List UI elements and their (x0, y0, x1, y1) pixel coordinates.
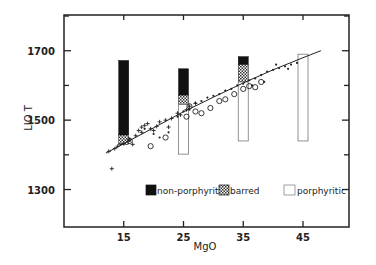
range-bar-non-porphyritic (238, 57, 248, 65)
legend-label: non-porphyritic (157, 186, 226, 196)
circle-marker (223, 97, 228, 102)
x-tick-label: 15 (117, 232, 131, 243)
dot-marker (242, 83, 244, 85)
dot-marker (218, 93, 220, 95)
cross-marker (167, 125, 171, 129)
dot-marker (272, 69, 274, 71)
cross-marker (164, 118, 168, 122)
range-bar-non-porphyritic (119, 60, 129, 135)
circle-marker (148, 144, 153, 149)
circle-marker (253, 85, 258, 90)
range-bar-barred (238, 65, 248, 82)
dot-marker (236, 84, 238, 86)
range-bar-porphyritic (238, 82, 248, 141)
dot-marker (296, 62, 298, 64)
x-tick-label: 25 (177, 232, 191, 243)
dot-marker (144, 128, 146, 130)
dot-marker (260, 74, 262, 76)
cross-marker (158, 120, 162, 124)
range-bars (119, 54, 308, 154)
dot-marker (287, 68, 289, 70)
range-bar-barred (178, 95, 188, 104)
y-axis-title: LIO T (23, 104, 34, 131)
y-tick-label: 1700 (27, 46, 55, 57)
y-tick-label: 1300 (27, 185, 55, 196)
legend-label: barred (230, 186, 260, 196)
x-tick-label: 35 (236, 232, 250, 243)
dot-marker (278, 67, 280, 69)
chart: 15253545 130015001700 MgO LIO T non-porp… (0, 0, 376, 265)
dot-marker (248, 79, 250, 81)
cross-marker (134, 134, 138, 138)
x-tick-label: 45 (296, 232, 310, 243)
legend: non-porphyriticbarredporphyritic (146, 185, 346, 196)
circle-marker (208, 105, 213, 110)
cross-marker (110, 167, 114, 171)
dot-marker (230, 88, 232, 90)
dot-marker (206, 96, 208, 98)
dot-marker (200, 100, 202, 102)
x-axis: 15253545 (117, 15, 310, 243)
dot-marker (182, 110, 184, 112)
range-bar-porphyritic (298, 54, 308, 141)
fit-curve (106, 51, 321, 153)
legend-swatch-non-porphyritic (146, 185, 156, 195)
dot-marker (254, 77, 256, 79)
dot-marker (176, 116, 178, 118)
dot-marker (284, 65, 286, 67)
legend-label: porphyritic (297, 186, 346, 196)
circle-marker (163, 135, 168, 140)
circle-marker (199, 111, 204, 116)
legend-swatch-porphyritic (284, 185, 295, 195)
circle-marker (232, 92, 237, 97)
circle-marker (217, 98, 222, 103)
dot-marker (158, 136, 160, 138)
dot-marker (167, 131, 169, 133)
dot-marker (224, 90, 226, 92)
dot-marker (153, 133, 155, 135)
x-axis-title: MgO (194, 241, 217, 252)
range-bar-non-porphyritic (178, 69, 188, 95)
fit-line (106, 51, 321, 153)
circle-marker (193, 109, 198, 114)
dot-marker (129, 140, 131, 142)
dot-marker (120, 143, 122, 145)
data-points (107, 62, 298, 171)
dot-marker (290, 64, 292, 66)
dot-marker (212, 95, 214, 97)
legend-swatch-barred (219, 185, 229, 195)
dot-marker (266, 70, 268, 72)
dot-marker (194, 102, 196, 104)
circle-marker (259, 79, 264, 84)
dot-marker (275, 64, 277, 66)
